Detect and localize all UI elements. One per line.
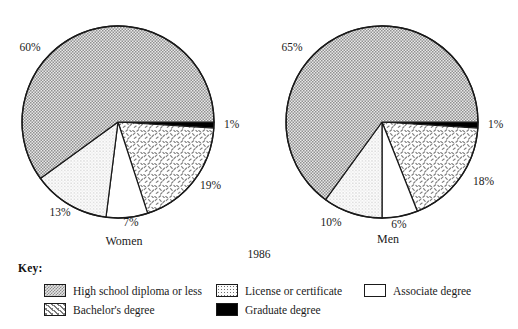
pct-label-women-graduate: 1% — [224, 118, 240, 130]
swatch-black-icon — [216, 303, 238, 316]
pct-label-men-license: 10% — [320, 216, 342, 228]
pct-label-men-graduate: 1% — [488, 118, 504, 130]
pct-label-women-highschool: 60% — [19, 41, 41, 53]
pct-label-men-associate: 6% — [391, 218, 407, 230]
legend-label-graduate: Graduate degree — [245, 304, 321, 316]
pie-charts-svg: 60% 1% 19% 7% 13% Women 65% 1% — [0, 0, 518, 329]
pie-women: 60% 1% 19% 7% 13% Women — [19, 26, 239, 248]
pct-label-women-license: 13% — [49, 206, 71, 218]
legend-item-bachelors: Bachelor's degree — [44, 303, 216, 316]
swatch-white-icon — [364, 284, 386, 297]
legend-title: Key: — [18, 262, 42, 274]
pie-men-slices — [286, 26, 478, 218]
pct-label-men-bachelors: 18% — [473, 175, 495, 187]
pct-label-men-highschool: 65% — [281, 41, 303, 53]
year-label: 1986 — [248, 248, 271, 260]
pct-label-women-bachelors: 19% — [200, 179, 222, 191]
legend-item-high-school: High school diploma or less — [44, 284, 216, 297]
swatch-dash-icon — [44, 303, 66, 316]
legend: High school diploma or less License or c… — [44, 281, 510, 319]
pie-chart-figure: 60% 1% 19% 7% 13% Women 65% 1% — [0, 0, 518, 329]
pie-caption-women: Women — [105, 234, 142, 248]
legend-item-associate: Associate degree — [364, 284, 510, 297]
pie-men: 65% 1% 18% 6% 10% Men — [281, 26, 503, 246]
swatch-dots-icon — [216, 284, 238, 297]
legend-label-high-school: High school diploma or less — [73, 285, 202, 297]
legend-item-license: License or certificate — [216, 284, 364, 297]
legend-label-license: License or certificate — [245, 285, 342, 297]
pct-label-women-associate: 7% — [123, 216, 139, 228]
pie-women-slices — [22, 26, 214, 218]
swatch-check-icon — [44, 284, 66, 297]
legend-label-associate: Associate degree — [393, 285, 471, 297]
pie-caption-men: Men — [377, 232, 399, 246]
legend-label-bachelors: Bachelor's degree — [73, 304, 155, 316]
legend-item-graduate: Graduate degree — [216, 303, 364, 316]
